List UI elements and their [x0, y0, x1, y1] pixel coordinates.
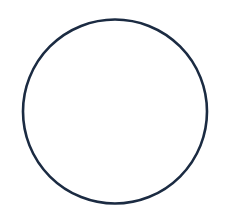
circle-outline [23, 20, 207, 204]
diagram-canvas [0, 0, 225, 223]
circle-diagram [0, 0, 225, 223]
